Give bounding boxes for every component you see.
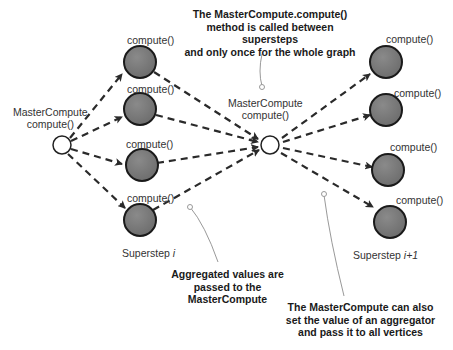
master-node-center	[261, 136, 279, 154]
note-aggregated-values: Aggregated values are passed to the Mast…	[160, 268, 295, 306]
vertex-label: compute()	[394, 87, 441, 99]
master-center-line2: compute()	[228, 109, 303, 121]
vertex-label: compute()	[396, 194, 443, 206]
superstep-label-text: Superstep	[122, 247, 170, 259]
master-left-line2: compute()	[13, 118, 88, 130]
master-node-left	[53, 136, 71, 154]
superstep-index: i	[173, 247, 175, 259]
note-line: set the value of an aggregator	[273, 314, 448, 327]
edges-master-to-superstep-i1	[281, 74, 373, 207]
note-line: Aggregated values are	[160, 268, 295, 281]
note-line: The MasterCompute can also	[273, 301, 448, 314]
note-set-aggregator-value: The MasterCompute can also set the value…	[273, 301, 448, 339]
superstep-i-label: Superstep i	[122, 247, 175, 259]
note-line: and only once for the whole graph	[180, 46, 360, 59]
vertex-label: compute()	[127, 34, 174, 46]
callout-lines	[188, 54, 345, 296]
note-line: and pass it to all vertices	[273, 326, 448, 339]
master-left-label: MasterCompute compute()	[13, 106, 88, 130]
superstep-index: i+1	[404, 249, 418, 261]
master-center-label: MasterCompute compute()	[228, 97, 303, 121]
note-line: method is called between supersteps	[180, 21, 360, 46]
note-line: passed to the	[160, 281, 295, 294]
note-line: The MasterCompute.compute()	[180, 8, 360, 21]
vertex-label: compute()	[390, 141, 437, 153]
master-center-line1: MasterCompute	[228, 97, 303, 109]
vertex-label: compute()	[127, 192, 174, 204]
master-left-line1: MasterCompute	[13, 106, 88, 118]
vertex-label: compute()	[126, 138, 173, 150]
superstep-label-text: Superstep	[353, 249, 401, 261]
vertex-label: compute()	[127, 83, 174, 95]
note-master-called-between-supersteps: The MasterCompute.compute() method is ca…	[180, 8, 360, 58]
vertex-label: compute()	[386, 33, 433, 45]
edges-master-to-superstep-i	[68, 74, 125, 208]
superstep-i1-label: Superstep i+1	[353, 249, 418, 261]
